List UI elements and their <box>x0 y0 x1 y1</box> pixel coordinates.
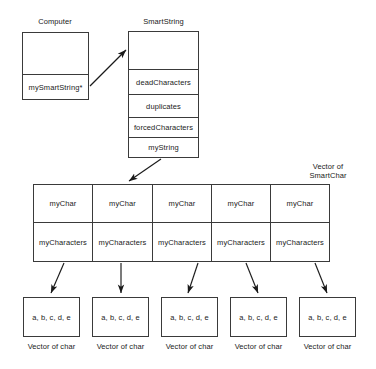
arrow-mystring-to-smartchar-vector <box>129 159 161 181</box>
smartchar-cell-mychar-4: myChar <box>271 184 330 223</box>
smartchar-cell-mychar-2: myChar <box>153 184 212 223</box>
smartstring-cell-mystring: myString <box>128 138 199 158</box>
char-vector-caption-3: Vector of char <box>223 342 294 352</box>
smartstring-cell-duplicates: duplicates <box>128 95 199 118</box>
char-vector-caption-0: Vector of char <box>16 342 87 352</box>
smartstring-cell-deadcharacters: deadCharacters <box>128 70 199 95</box>
char-vector-box-1: a, b, c, d, e <box>92 297 149 337</box>
smartchar-cell-mycharacters-2: myCharacters <box>153 223 212 262</box>
arrow-mycharacters-2-to-char-vector-2 <box>188 263 198 293</box>
smartstring-cell-forcedcharacters: forcedCharacters <box>128 118 199 138</box>
smartchar-cell-mycharacters-1: myCharacters <box>93 223 153 262</box>
char-vector-box-4: a, b, c, d, e <box>299 297 356 337</box>
computer-empty-cell <box>22 32 89 75</box>
smartchar-cell-mycharacters-0: myCharacters <box>33 223 93 262</box>
char-vector-box-2: a, b, c, d, e <box>161 297 218 337</box>
char-vector-caption-1: Vector of char <box>85 342 156 352</box>
smartchar-cell-mychar-3: myChar <box>212 184 271 223</box>
arrow-mycharacters-4-to-char-vector-4 <box>315 263 327 293</box>
char-vector-caption-2: Vector of char <box>154 342 225 352</box>
smartchar-cell-mychar-1: myChar <box>93 184 153 223</box>
smartstring-label: SmartString <box>128 17 199 27</box>
computer-mysmartstring-pointer-cell: mySmartString* <box>22 75 89 100</box>
uml-object-diagram: Computer mySmartString* SmartString dead… <box>0 0 376 369</box>
char-vector-box-3: a, b, c, d, e <box>230 297 287 337</box>
smartstring-cell-empty <box>128 31 199 70</box>
arrow-pointer-to-smartstring <box>90 50 126 86</box>
vector-of-smartchar-label-line2: SmartChar <box>298 171 358 181</box>
smartchar-cell-mychar-0: myChar <box>33 184 93 223</box>
arrow-mycharacters-0-to-char-vector-0 <box>51 263 64 293</box>
smartchar-cell-mycharacters-4: myCharacters <box>271 223 330 262</box>
arrow-mycharacters-3-to-char-vector-3 <box>246 263 258 293</box>
smartchar-cell-mycharacters-3: myCharacters <box>212 223 271 262</box>
char-vector-box-0: a, b, c, d, e <box>23 297 80 337</box>
computer-label: Computer <box>22 17 88 27</box>
char-vector-caption-4: Vector of char <box>292 342 363 352</box>
